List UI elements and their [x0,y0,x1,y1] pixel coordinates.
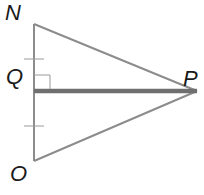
label-Q: Q [6,66,23,88]
right-angle-mark [34,75,50,89]
label-P: P [183,68,198,90]
triangle-diagram [0,0,204,195]
label-N: N [5,2,21,24]
segment-NP [34,24,197,91]
segment-OP [34,91,197,161]
label-O: O [10,163,27,185]
